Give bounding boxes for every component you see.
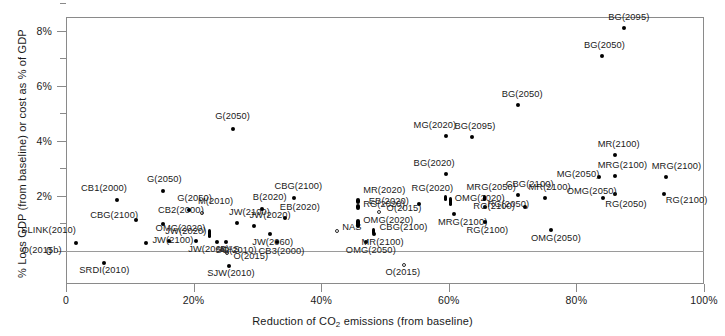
- scatter-plot-figure: 02%4%6%8% 020%40%60%80%100% SLINK(2010)S…: [0, 0, 725, 336]
- data-point: [600, 54, 604, 58]
- point-label: OMG(2020): [156, 224, 206, 233]
- data-point: [187, 208, 191, 212]
- point-label: BG(2095): [608, 13, 649, 22]
- point-label: CB2(2000): [158, 206, 204, 215]
- data-point: [224, 240, 228, 244]
- x-axis-title-pre: Reduction of CO: [252, 315, 336, 327]
- x-tick-label-0: 0: [36, 294, 96, 306]
- data-point: [161, 189, 165, 193]
- x-tick-0: [66, 284, 67, 292]
- data-point: [613, 153, 617, 157]
- point-label: M(2010): [198, 197, 233, 206]
- point-label: O(2015): [386, 268, 421, 277]
- x-tick-label-40: 40%: [291, 294, 351, 306]
- point-label: SRDI(2010): [79, 266, 129, 275]
- point-label: CB3(2000): [259, 247, 305, 256]
- data-point: [543, 196, 547, 200]
- y-tick-7: [60, 58, 66, 59]
- data-point: [167, 239, 171, 243]
- point-label: G(2050): [147, 175, 182, 184]
- point-label: CBG(2100): [90, 211, 138, 220]
- x-axis-title: Reduction of CO2 emissions (from baselin…: [0, 315, 725, 327]
- point-label: B(2020): [253, 193, 287, 202]
- point-label: MR(2100): [362, 238, 404, 247]
- data-point: [444, 195, 448, 201]
- data-point: [549, 228, 553, 232]
- data-point: [74, 241, 78, 245]
- x-tick-100: [704, 284, 705, 292]
- x-tick-60: [449, 284, 450, 292]
- data-point: [664, 175, 668, 179]
- data-point: [252, 224, 256, 228]
- x-axis-title-post: emissions (from baseline): [340, 315, 472, 327]
- x-tick-label-100: 100%: [674, 294, 725, 306]
- point-label: SLINK(2010): [21, 226, 76, 235]
- point-label: RG(2100): [666, 196, 708, 205]
- point-label: CBG(2100): [380, 223, 428, 232]
- point-label: MRG(2100): [652, 162, 701, 171]
- y-tick-4: [57, 141, 66, 142]
- data-point: [215, 240, 219, 244]
- point-label: BG(2050): [502, 90, 543, 99]
- data-point: [275, 240, 279, 244]
- data-point: [372, 232, 376, 236]
- data-point: [417, 202, 421, 206]
- data-point: [115, 198, 119, 202]
- point-label: SJW(2010): [207, 269, 254, 278]
- point-label: G(2050): [215, 112, 250, 121]
- point-label: OMG(2050): [531, 234, 581, 243]
- x-tick-40: [321, 284, 322, 292]
- point-label: RG(2100): [473, 202, 515, 211]
- point-label: CB1(2000): [81, 184, 127, 193]
- point-label: BG(2095): [454, 122, 495, 131]
- point-label: OMG(2050): [346, 246, 396, 255]
- data-point: [483, 220, 487, 224]
- point-label: MR(2100): [598, 140, 640, 149]
- point-label: MG(2050): [557, 170, 600, 179]
- point-label: MR(2020): [363, 186, 405, 195]
- point-label: MRG(2100): [598, 161, 647, 170]
- x-tick-label-80: 80%: [546, 294, 606, 306]
- point-label: RG(2020): [412, 184, 454, 193]
- point-label: BG(2050): [584, 41, 625, 50]
- y-tick-2: [57, 196, 66, 197]
- data-point: [260, 207, 264, 211]
- x-tick-label-60: 60%: [419, 294, 479, 306]
- point-label: OMG(2050): [567, 187, 617, 196]
- point-label: EB(2020): [369, 197, 409, 206]
- x-tick-80: [576, 284, 577, 292]
- y-axis-title: % Loss GDP (from baseline) or cost as % …: [16, 29, 28, 278]
- data-point: [377, 210, 381, 214]
- y-tick-9: [60, 3, 66, 4]
- y-tick-3: [60, 168, 66, 169]
- y-tick-8: [57, 31, 66, 32]
- point-label: EB(2020): [280, 203, 320, 212]
- data-point: [200, 211, 204, 215]
- y-tick-5: [60, 113, 66, 114]
- x-axis-title-subscript: 2: [336, 320, 341, 329]
- data-point: [235, 221, 239, 225]
- point-label: BG(2020): [414, 159, 455, 168]
- point-label: RG(2100): [467, 226, 509, 235]
- data-point: [622, 26, 626, 30]
- data-point: [356, 198, 360, 204]
- data-point: [613, 174, 617, 178]
- point-label: MG(2020): [414, 121, 457, 130]
- data-point: [444, 134, 448, 138]
- data-point: [356, 219, 360, 228]
- x-tick-label-20: 20%: [164, 294, 224, 306]
- point-label: RG(2050): [605, 200, 647, 209]
- data-point: [452, 212, 456, 216]
- point-label: CBG(2100): [274, 182, 322, 191]
- y-tick-6: [57, 86, 66, 87]
- point-label: MR(2100): [529, 183, 571, 192]
- data-point: [220, 248, 224, 252]
- data-point: [208, 229, 212, 238]
- x-tick-20: [194, 284, 195, 292]
